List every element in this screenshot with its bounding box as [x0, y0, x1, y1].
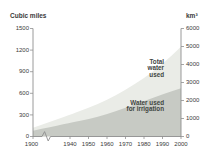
water-demand-chart: WATER DEMAND IN THE 20TH CENTURY Cubic m… — [0, 0, 209, 163]
plot-area — [0, 0, 209, 163]
